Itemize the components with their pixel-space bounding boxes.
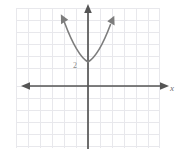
x-axis-arrow-left-icon — [21, 82, 30, 90]
graph-canvas: 2 x — [0, 0, 180, 149]
vertex-value-label: 2 — [73, 61, 77, 70]
x-axis — [21, 82, 169, 90]
y-axis — [84, 4, 92, 149]
coordinate-plane-figure: 2 x — [0, 0, 180, 149]
x-axis-arrow-right-icon — [160, 82, 169, 90]
x-axis-label: x — [169, 83, 174, 93]
